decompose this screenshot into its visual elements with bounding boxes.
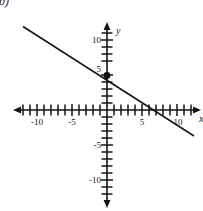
y-axis-label: y [116,26,120,36]
linear-function-line [23,27,194,137]
coordinate-plane-svg [0,0,203,211]
graph-figure: b) [0,0,203,211]
y-tick-label-neg5: -5 [85,141,101,150]
y-tick-label-10: 10 [85,36,101,45]
y-axis-bottom-arrow-icon [104,200,111,208]
x-tick-label-5: 5 [140,118,145,127]
y-axis-top-arrow-icon [104,22,111,30]
x-axis-label: x [199,114,203,124]
y-intercept-point-marker [104,72,111,79]
plotted-line [23,27,194,137]
x-axis-left-arrow-icon [13,107,21,114]
y-axis [101,22,113,208]
y-tick-label-neg10: -10 [83,176,101,185]
y-tick-label-5: 5 [85,65,101,74]
x-tick-label-neg5: -5 [68,118,76,127]
x-tick-label-10: 10 [174,118,183,127]
x-tick-label-neg10: -10 [31,118,43,127]
